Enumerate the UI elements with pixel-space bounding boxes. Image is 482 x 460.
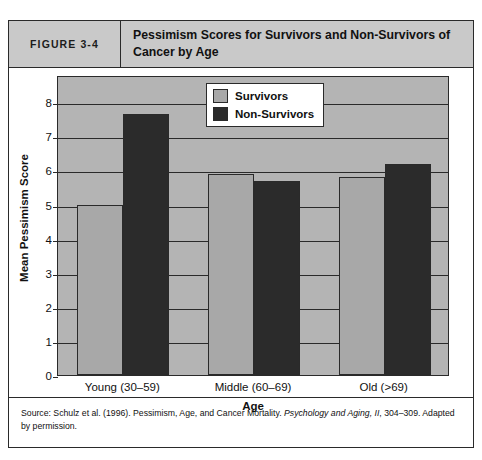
x-axis-tick-label: Old (>69) bbox=[360, 381, 408, 393]
y-axis-title: Mean Pessimism Score bbox=[13, 68, 35, 368]
y-axis-tick bbox=[53, 343, 58, 344]
bar-survivors-0 bbox=[77, 205, 123, 375]
y-axis-tick-label: 8 bbox=[46, 97, 52, 109]
y-axis-tick bbox=[53, 241, 58, 242]
gridline bbox=[58, 138, 448, 139]
source-journal: Psychology and Aging, II bbox=[284, 408, 379, 418]
source-prefix: Source: Schulz et al. (1996). Pessimism,… bbox=[21, 408, 284, 418]
y-axis-tick-label: 0 bbox=[46, 370, 52, 382]
source-footer: Source: Schulz et al. (1996). Pessimism,… bbox=[9, 397, 473, 447]
y-axis-tick-labels: 012345678 bbox=[33, 68, 55, 368]
bar-non-survivors-0 bbox=[123, 114, 169, 375]
bar-survivors-2 bbox=[339, 177, 385, 375]
y-axis-tick bbox=[53, 309, 58, 310]
figure-header: FIGURE 3-4 Pessimism Scores for Survivor… bbox=[9, 21, 473, 68]
y-axis-tick bbox=[53, 138, 58, 139]
source-note: Source: Schulz et al. (1996). Pessimism,… bbox=[21, 407, 461, 434]
y-axis-tick-label: 7 bbox=[46, 131, 52, 143]
legend-label: Non-Survivors bbox=[235, 108, 314, 120]
y-axis-tick-label: 3 bbox=[46, 268, 52, 280]
legend-item: Non-Survivors bbox=[213, 107, 314, 121]
legend-swatch-icon bbox=[213, 89, 228, 103]
y-axis-tick bbox=[53, 275, 58, 276]
legend-item: Survivors bbox=[213, 89, 314, 103]
plot-area: SurvivorsNon-Survivors bbox=[57, 76, 449, 376]
chart-legend: SurvivorsNon-Survivors bbox=[206, 83, 324, 127]
figure-number-cell: FIGURE 3-4 bbox=[9, 21, 121, 67]
chart-region: Mean Pessimism Score 012345678 Survivors… bbox=[9, 68, 473, 399]
y-axis-tick-label: 1 bbox=[46, 336, 52, 348]
y-axis-tick bbox=[53, 207, 58, 208]
y-axis-tick-label: 5 bbox=[46, 200, 52, 212]
y-axis-tick bbox=[53, 377, 58, 378]
y-axis-tick-label: 2 bbox=[46, 302, 52, 314]
x-axis-tick-label: Young (30–59) bbox=[85, 381, 160, 393]
legend-label: Survivors bbox=[235, 90, 288, 102]
y-axis-title-label: Mean Pessimism Score bbox=[18, 154, 30, 282]
figure-title-cell: Pessimism Scores for Survivors and Non-S… bbox=[121, 21, 473, 67]
y-axis-tick-label: 4 bbox=[46, 234, 52, 246]
y-axis-tick bbox=[53, 104, 58, 105]
figure-number-label: FIGURE 3-4 bbox=[30, 38, 99, 50]
bar-survivors-1 bbox=[208, 174, 254, 375]
legend-swatch-icon bbox=[213, 107, 228, 121]
figure-container: FIGURE 3-4 Pessimism Scores for Survivor… bbox=[8, 20, 474, 448]
y-axis-tick bbox=[53, 172, 58, 173]
figure-title: Pessimism Scores for Survivors and Non-S… bbox=[133, 27, 461, 61]
bar-non-survivors-2 bbox=[385, 164, 431, 375]
bar-non-survivors-1 bbox=[254, 181, 300, 375]
y-axis-tick-label: 6 bbox=[46, 165, 52, 177]
x-axis-tick-label: Middle (60–69) bbox=[215, 381, 292, 393]
